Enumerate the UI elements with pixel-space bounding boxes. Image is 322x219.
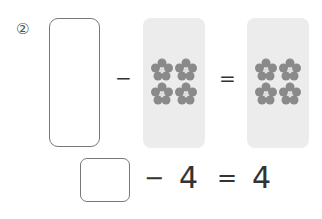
flower-icon: [278, 82, 302, 106]
flower-icon: [278, 58, 302, 82]
flower-panel-2: [247, 18, 309, 148]
answer-box-large[interactable]: [49, 18, 100, 147]
flower-icon: [174, 58, 198, 82]
minus-sign-2: −: [144, 164, 164, 192]
flower-icon: [174, 82, 198, 106]
result: 4: [252, 160, 271, 195]
subtrahend: 4: [179, 160, 198, 195]
problem-number: ②: [16, 20, 29, 38]
flower-icon: [150, 58, 174, 82]
equals-sign-2: =: [217, 164, 237, 192]
flower-icon: [254, 58, 278, 82]
flower-icon: [150, 82, 174, 106]
flower-icon: [254, 82, 278, 106]
equals-sign: =: [219, 66, 236, 90]
flower-panel-1: [143, 18, 205, 148]
answer-box-small[interactable]: [80, 158, 130, 202]
minus-sign: −: [115, 66, 132, 90]
